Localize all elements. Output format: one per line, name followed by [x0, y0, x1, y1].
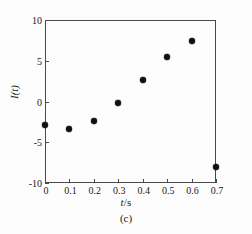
x-tick: 0.5 [167, 179, 168, 183]
x-tick: 0.7 [216, 179, 217, 183]
x-tick: 0.2 [94, 179, 95, 183]
y-tick-label: 10 [32, 16, 42, 26]
y-tick-label: 5 [37, 57, 42, 67]
y-tick-label: -10 [29, 179, 42, 189]
x-tick-label: 0.5 [162, 186, 175, 196]
x-tick-label: 0.4 [137, 186, 150, 196]
x-tick-label: 0.7 [211, 186, 224, 196]
x-tick: 0.6 [192, 179, 193, 183]
x-tick: 0.3 [118, 179, 119, 183]
data-point [213, 164, 219, 170]
figure-panel-c: 1050-5-10 00.10.20.30.40.50.60.7 I(t) t/… [0, 0, 252, 234]
x-axis-label-unit: /s [124, 196, 132, 208]
figure-caption: (c) [0, 212, 252, 224]
data-point [115, 100, 121, 106]
data-point [140, 77, 146, 83]
x-tick: 0.1 [69, 179, 70, 183]
x-tick-label: 0.6 [186, 186, 199, 196]
data-point [66, 126, 72, 132]
x-tick-label: 0.2 [89, 186, 102, 196]
data-point [189, 38, 195, 44]
y-axis-label: I(t) [8, 84, 20, 100]
data-point [91, 118, 97, 124]
y-tick: 5 [45, 61, 49, 62]
x-tick: 0 [45, 179, 46, 183]
y-tick: 10 [45, 20, 49, 21]
data-point [42, 122, 48, 128]
x-tick-label: 0.1 [64, 186, 77, 196]
y-tick: -5 [45, 142, 49, 143]
x-tick-label: 0.3 [113, 186, 126, 196]
x-axis-label: t/s [0, 196, 252, 208]
y-tick: 0 [45, 102, 49, 103]
y-tick-label: 0 [37, 98, 42, 108]
data-point [164, 54, 170, 60]
x-tick-label: 0 [44, 186, 49, 196]
x-tick: 0.4 [143, 179, 144, 183]
y-tick-label: -5 [34, 138, 42, 148]
plot-area: 1050-5-10 00.10.20.30.40.50.60.7 [45, 20, 216, 183]
y-tick: -10 [45, 183, 49, 184]
